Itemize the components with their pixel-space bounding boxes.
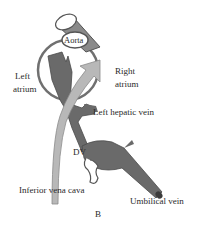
inferior-vena-cava-label: Inferior vena cava <box>19 185 84 195</box>
ductus-venosus-label: DV <box>73 147 86 157</box>
left-atrium-label-line1: Left <box>15 71 30 81</box>
left-atrium-label-line2: atrium <box>13 84 37 94</box>
aorta-label: Aorta <box>64 35 83 45</box>
right-atrium-label-line1: Right <box>115 66 135 76</box>
panel-label: B <box>95 209 101 219</box>
umbilical-vein-label: Umbilical vein <box>130 196 184 206</box>
right-atrium-label-line2: atrium <box>115 79 139 89</box>
umbilical-branch <box>124 140 134 148</box>
left-hepatic-vein-label: Left hepatic vein <box>93 107 154 117</box>
